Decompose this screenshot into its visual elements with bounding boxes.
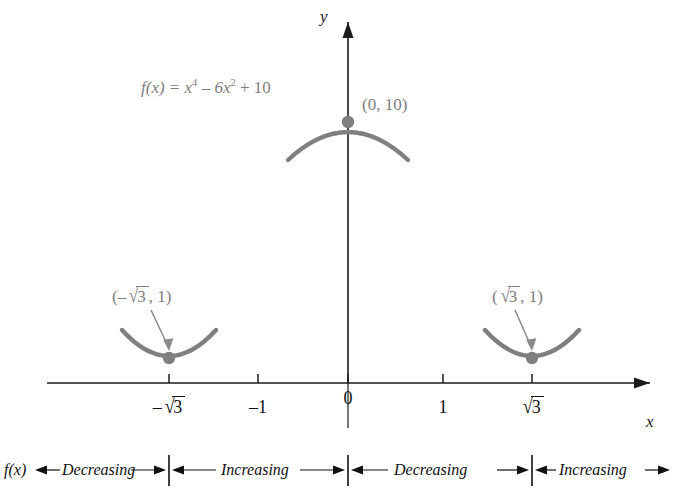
radicand-tick-neg-sqrt3: 3 [172, 396, 185, 418]
function-expression-label: f(x) = x4 – 6x2 + 10 [141, 78, 271, 96]
interval-label-decreasing-1: Decreasing [62, 461, 135, 479]
x-tick-label-neg-1: –1 [228, 398, 288, 416]
x-tick-label-sqrt3: √3 [500, 396, 564, 418]
function-expression-mid: – 6x [197, 78, 230, 97]
function-expression-prefix: f(x) = x [141, 78, 192, 97]
label-right-local-minimum-point: (√3, 1) [492, 285, 543, 307]
label-local-maximum-point: (0, 10) [362, 96, 407, 113]
leader-arrow-right-minimum [515, 310, 536, 351]
radicand-left-minimum: 3 [136, 286, 149, 307]
function-graph-figure: f(x) = x4 – 6x2 + 10 (0, 10) (–√3, 1) (√… [0, 0, 676, 497]
point-dot-left-minimum [163, 352, 175, 364]
interval-label-increasing-1: Increasing [221, 461, 289, 479]
interval-bar-row-label: f(x) [4, 461, 26, 479]
x-tick-label-neg-sqrt3: –√3 [133, 396, 205, 418]
x-tick-label-zero: 0 [318, 389, 378, 407]
radical-left-minimum: √3 [126, 285, 149, 307]
radicand-right-minimum: 3 [508, 286, 521, 307]
x-axis-ticks [169, 374, 532, 383]
radical-right-minimum: √3 [498, 285, 521, 307]
x-axis-label: x [646, 413, 654, 430]
radicand-tick-sqrt3: 3 [531, 396, 544, 418]
y-axis-arrowhead [343, 22, 354, 38]
interval-label-increasing-2: Increasing [559, 461, 627, 479]
label-left-local-minimum-point: (–√3, 1) [112, 285, 171, 307]
point-dot-right-minimum [526, 352, 538, 364]
function-expression-suffix: + 10 [236, 78, 271, 97]
graph-canvas [0, 0, 676, 497]
leader-arrow-left-minimum [151, 310, 173, 351]
interval-label-decreasing-2: Decreasing [394, 461, 467, 479]
x-axis-arrowhead [634, 378, 650, 389]
x-tick-label-1: 1 [413, 398, 473, 416]
point-dot-local-maximum [342, 116, 354, 128]
monotonicity-interval-bar: f(x) Decreasing Increasing Decreasing In… [0, 452, 676, 492]
y-axis-label: y [320, 8, 328, 25]
